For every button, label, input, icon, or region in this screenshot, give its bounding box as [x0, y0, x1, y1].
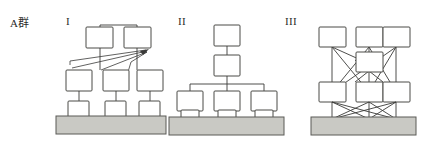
- node-middle-left-p3: [319, 82, 346, 102]
- figure-canvas: A群 I II III: [0, 0, 423, 143]
- node-center-p3: [356, 52, 383, 72]
- node-middle-right-p3: [383, 82, 410, 102]
- node-top-left-p3: [319, 27, 346, 47]
- panel-diagram-3: [0, 0, 423, 143]
- node-middle-center-p3: [356, 82, 383, 102]
- base-slab-p3: [311, 117, 416, 135]
- node-top-right-p3: [383, 27, 410, 47]
- node-top-center-p3: [356, 27, 383, 47]
